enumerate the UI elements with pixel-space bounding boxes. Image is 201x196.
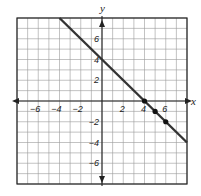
data-point — [163, 119, 168, 124]
y-tick-label: 2 — [93, 75, 99, 85]
x-tick-label: −6 — [30, 104, 40, 114]
x-axis-arrow-left — [12, 98, 19, 104]
y-tick-label: −2 — [89, 117, 99, 127]
coordinate-plane-chart: −6−4−2246642−2−4−6 x y — [0, 0, 201, 196]
x-tick-label: 2 — [119, 104, 125, 114]
x-tick-label: −2 — [73, 104, 83, 114]
axes — [12, 16, 192, 186]
y-axis-arrow-up — [99, 20, 105, 27]
y-tick-label: 6 — [94, 34, 99, 44]
x-tick-label: 4 — [141, 104, 146, 114]
y-axis-arrow-down — [99, 176, 105, 183]
x-axis-label: x — [190, 95, 196, 107]
data-point — [153, 109, 158, 114]
y-tick-label: −4 — [89, 138, 99, 148]
data-point — [142, 98, 147, 103]
x-tick-label: 6 — [162, 104, 167, 114]
y-tick-label: −6 — [89, 158, 99, 168]
y-axis-label: y — [99, 2, 105, 14]
x-tick-label: −4 — [51, 104, 61, 114]
